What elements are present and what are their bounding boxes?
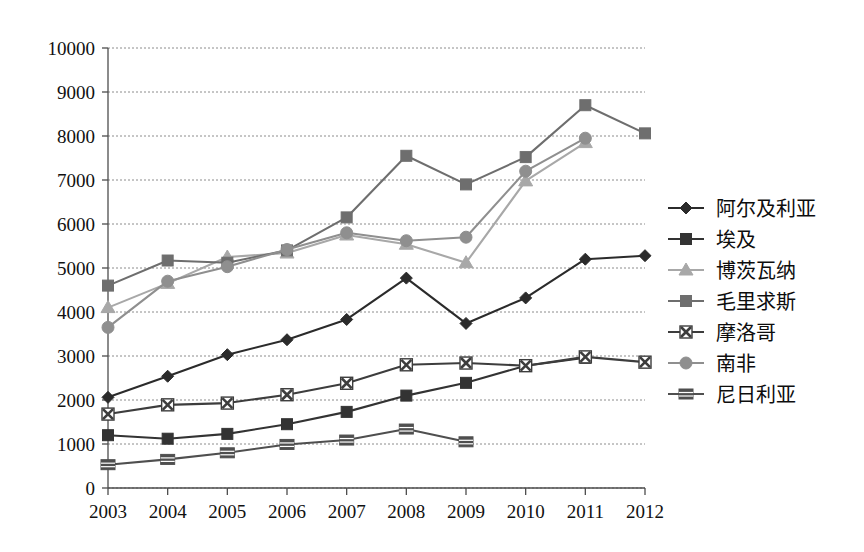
x-axis-tick-labels: 2003200420052006200720082009201020112012 — [89, 501, 664, 522]
legend-label: 南非 — [716, 352, 756, 376]
data-point-marker — [341, 313, 353, 325]
y-tick-label: 8000 — [57, 126, 95, 147]
legend-diamond-marker — [680, 202, 692, 214]
data-point-marker — [401, 150, 412, 161]
data-point-marker — [400, 235, 412, 247]
data-point-marker — [103, 280, 114, 291]
y-tick-label: 4000 — [57, 302, 95, 323]
data-point-marker — [102, 321, 114, 333]
data-point-marker — [459, 437, 473, 447]
legend-label: 埃及 — [716, 228, 756, 252]
data-point-marker — [221, 261, 233, 273]
data-point-marker — [580, 100, 591, 111]
series-line — [108, 358, 585, 439]
legend-x-box-marker — [680, 326, 692, 338]
data-point-marker — [220, 448, 234, 458]
data-point-marker — [401, 390, 412, 401]
series-5 — [102, 351, 651, 420]
data-point-marker — [341, 212, 352, 223]
y-tick-label: 9000 — [57, 82, 95, 103]
data-point-marker — [221, 397, 233, 409]
axes-group — [102, 48, 645, 495]
data-point-marker — [161, 454, 175, 464]
series-line — [108, 143, 585, 308]
series-3 — [101, 136, 592, 313]
series-1 — [102, 250, 651, 404]
y-tick-label: 7000 — [57, 170, 95, 191]
data-point-marker — [162, 275, 174, 287]
x-tick-label: 2009 — [447, 501, 485, 522]
legend-item-7[interactable]: 尼日利亚 — [668, 383, 796, 407]
legend-item-4[interactable]: 毛里求斯 — [668, 290, 796, 314]
data-point-marker — [461, 179, 472, 190]
data-point-marker — [399, 424, 413, 434]
data-point-marker — [520, 152, 531, 163]
data-point-marker — [221, 349, 233, 361]
series-6 — [102, 132, 591, 333]
x-tick-label: 2007 — [328, 501, 366, 522]
data-point-marker — [460, 231, 472, 243]
data-point-marker — [340, 435, 354, 445]
legend: 阿尔及利亚埃及博茨瓦纳毛里求斯摩洛哥南非尼日利亚 — [668, 197, 816, 407]
x-tick-label: 2003 — [89, 501, 127, 522]
legend-label: 尼日利亚 — [716, 383, 796, 407]
data-point-marker — [639, 356, 651, 368]
gridlines-group — [108, 48, 645, 488]
data-point-marker — [103, 430, 114, 441]
legend-item-6[interactable]: 南非 — [668, 352, 756, 376]
legend-label: 毛里求斯 — [716, 290, 796, 314]
legend-label: 博茨瓦纳 — [716, 259, 796, 283]
data-point-marker — [460, 357, 472, 369]
data-point-marker — [162, 399, 174, 411]
y-tick-label: 3000 — [57, 346, 95, 367]
data-point-marker — [162, 433, 173, 444]
y-axis-tick-labels: 0100020003000400050006000700080009000100… — [48, 38, 96, 499]
chart-canvas: 0100020003000400050006000700080009000100… — [0, 0, 864, 552]
data-point-marker — [639, 250, 651, 262]
legend-item-5[interactable]: 摩洛哥 — [668, 321, 776, 345]
data-point-marker — [102, 391, 114, 403]
data-point-marker — [222, 428, 233, 439]
x-tick-label: 2005 — [208, 501, 246, 522]
legend-bar-marker — [679, 389, 693, 399]
legend-item-1[interactable]: 阿尔及利亚 — [668, 197, 816, 221]
data-point-marker — [461, 377, 472, 388]
data-point-marker — [520, 292, 532, 304]
series-line — [108, 357, 645, 414]
legend-square-marker — [681, 234, 692, 245]
y-tick-label: 0 — [86, 478, 96, 499]
data-point-marker — [579, 253, 591, 265]
data-point-marker — [640, 128, 651, 139]
data-point-marker — [280, 439, 294, 449]
data-point-marker — [282, 419, 293, 430]
data-point-marker — [579, 132, 591, 144]
series-line — [108, 105, 645, 285]
legend-item-3[interactable]: 博茨瓦纳 — [668, 259, 796, 283]
x-tick-label: 2008 — [387, 501, 425, 522]
x-tick-label: 2010 — [507, 501, 545, 522]
y-tick-label: 6000 — [57, 214, 95, 235]
legend-circle-marker — [680, 357, 692, 369]
y-tick-label: 10000 — [48, 38, 96, 59]
legend-label: 摩洛哥 — [716, 321, 776, 345]
data-point-marker — [281, 244, 293, 256]
y-tick-label: 2000 — [57, 390, 95, 411]
data-point-marker — [341, 227, 353, 239]
series-4 — [103, 100, 651, 291]
data-point-marker — [341, 406, 352, 417]
y-tick-label: 1000 — [57, 434, 95, 455]
legend-label: 阿尔及利亚 — [716, 197, 816, 221]
data-point-marker — [281, 389, 293, 401]
line-chart: 0100020003000400050006000700080009000100… — [0, 0, 864, 552]
data-point-marker — [579, 351, 591, 363]
data-point-marker — [102, 408, 114, 420]
data-point-marker — [341, 377, 353, 389]
data-point-marker — [162, 255, 173, 266]
data-point-marker — [101, 460, 115, 470]
data-point-marker — [281, 334, 293, 346]
data-point-marker — [520, 165, 532, 177]
x-tick-label: 2006 — [268, 501, 306, 522]
data-series-group — [101, 100, 651, 470]
legend-item-2[interactable]: 埃及 — [668, 228, 756, 252]
data-point-marker — [520, 360, 532, 372]
